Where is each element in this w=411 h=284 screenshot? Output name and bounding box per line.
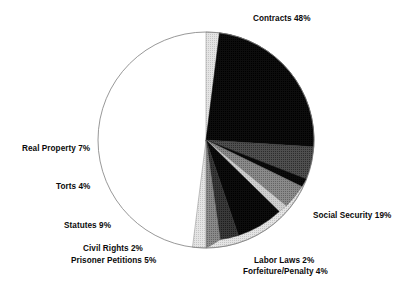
pie-label-civil-rights: Civil Rights 2% xyxy=(83,243,143,254)
pie-label-contracts: Contracts 48% xyxy=(253,13,311,24)
pie-label-real-property: Real Property 7% xyxy=(22,143,90,154)
pie-label-prisoner-petitions: Prisoner Petitions 5% xyxy=(71,255,156,266)
pie-chart-figure: Contracts 48% Real Property 7% Torts 4% … xyxy=(0,0,411,284)
pie-label-torts: Torts 4% xyxy=(56,181,90,192)
pie-label-forfeiture-penalty: Forfeiture/Penalty 4% xyxy=(243,266,328,277)
pie-label-labor-laws: Labor Laws 2% xyxy=(254,255,314,266)
pie-label-statutes: Statutes 9% xyxy=(64,220,111,231)
pie-chart-graphic xyxy=(0,0,411,284)
pie-label-social-security: Social Security 19% xyxy=(313,210,391,221)
pie-slice-social-security xyxy=(206,33,314,147)
